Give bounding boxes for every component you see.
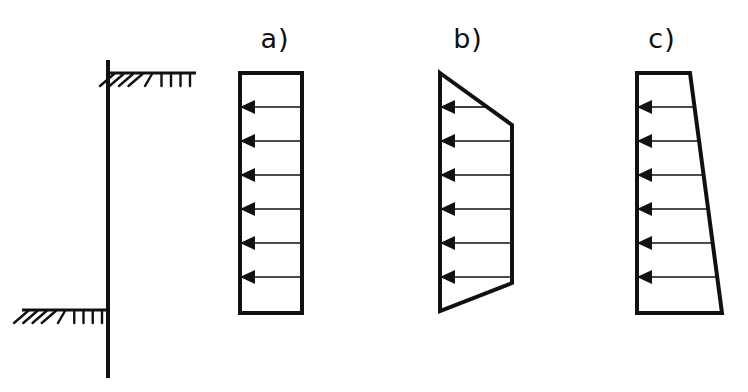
diagram-c-label: c) bbox=[648, 23, 675, 54]
earth-pressure-diagram-figure: a) b) c) bbox=[0, 0, 748, 392]
diagram-a-label: a) bbox=[260, 23, 289, 54]
diagram-b-label: b) bbox=[453, 23, 483, 54]
